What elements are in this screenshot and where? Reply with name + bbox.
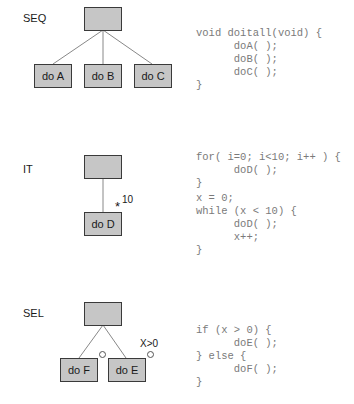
sel-label: SEL: [23, 307, 44, 319]
code-line: x++;: [196, 231, 341, 244]
code-line: }: [196, 244, 341, 257]
seq-code-block: void doitall(void) { doA( ); doB( ); doC…: [196, 14, 322, 92]
code-line: doC( );: [196, 66, 322, 79]
sel-parent-box: [84, 302, 122, 326]
code-line: x = 0;: [196, 192, 341, 205]
code-line: }: [196, 79, 322, 92]
iteration-star: *: [115, 199, 120, 214]
selection-condition: X>0: [140, 338, 158, 349]
code-line: doF( );: [196, 363, 278, 376]
code-line: void doitall(void) {: [196, 27, 322, 40]
selection-circle-icon: [147, 351, 154, 358]
seq-child-do-a: do A: [34, 64, 72, 88]
seq-child-do-b: do B: [84, 64, 122, 88]
seq-parent-box: [84, 7, 122, 31]
code-line: for( i=0; i<10; i++ ) {: [196, 151, 341, 164]
code-line: if (x > 0) {: [196, 324, 278, 337]
selection-circle-icon: [99, 351, 106, 358]
it-parent-box: [84, 155, 122, 179]
it-label: IT: [23, 163, 33, 175]
code-line: while (x < 10) {: [196, 205, 341, 218]
it-child-do-d: do D: [84, 212, 122, 236]
sel-child-do-f: do F: [60, 358, 98, 382]
sel-child-do-e: do E: [108, 358, 146, 382]
seq-child-do-c: do C: [134, 64, 172, 88]
code-line: }: [196, 177, 341, 190]
code-line: doD( );: [196, 218, 341, 231]
code-line: } else {: [196, 350, 278, 363]
code-line: doB( );: [196, 53, 322, 66]
code-line: doD( );: [196, 164, 341, 177]
code-line: doE( );: [196, 337, 278, 350]
code-line: }: [196, 376, 278, 389]
code-line: doA( );: [196, 40, 322, 53]
it-code-block: for( i=0; i<10; i++ ) { doD( );}x = 0;wh…: [196, 138, 341, 257]
sel-code-block: if (x > 0) { doE( );} else { doF( );}: [196, 311, 278, 389]
iteration-count: 10: [122, 194, 133, 205]
seq-label: SEQ: [23, 12, 46, 24]
